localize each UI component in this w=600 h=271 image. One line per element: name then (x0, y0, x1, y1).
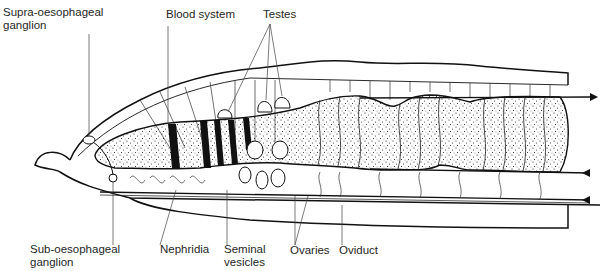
nephridia (130, 172, 541, 199)
earthworm-diagram (0, 0, 600, 271)
flow-arrows (582, 93, 598, 204)
sub-oesophageal-ganglion-shape (109, 174, 117, 182)
label-seminal-vesicles: Seminal vesicles (224, 243, 266, 268)
label-ovaries: Ovaries (290, 244, 330, 257)
label-testes: Testes (263, 8, 296, 21)
label-supra-oesophageal-ganglion: Supra-oesophageal ganglion (3, 6, 103, 31)
label-nephridia: Nephridia (160, 243, 209, 256)
label-oviduct: Oviduct (339, 244, 378, 257)
supra-oesophageal-ganglion-shape (83, 136, 95, 144)
label-sub-oesophageal-ganglion: Sub-oesophageal ganglion (30, 243, 120, 268)
label-blood-system: Blood system (166, 8, 235, 21)
alimentary-canal (95, 95, 568, 172)
